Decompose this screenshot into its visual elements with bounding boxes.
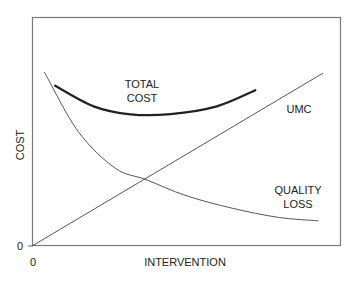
y-axis-label: COST [14, 129, 26, 160]
umc-line [32, 73, 323, 246]
quality-loss-curve [44, 72, 318, 221]
quality-loss-label-line1: QUALITY [274, 184, 322, 196]
x-tick-label-0: 0 [30, 256, 36, 268]
total-cost-label-line1: TOTAL [125, 78, 159, 90]
quality-loss-label-line2: LOSS [283, 198, 312, 210]
umc-label: UMC [286, 103, 311, 115]
x-axis-label: INTERVENTION [144, 256, 226, 268]
total-cost-label-line2: COST [127, 92, 158, 104]
cost-intervention-chart: TOTAL COST UMC QUALITY LOSS COST INTERVE… [0, 0, 355, 283]
y-tick-label-0: 0 [17, 240, 23, 252]
